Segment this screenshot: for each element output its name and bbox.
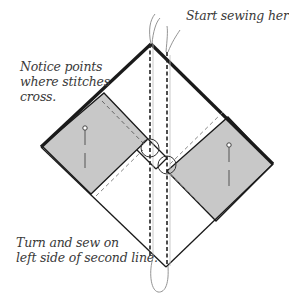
start-sewing-text: Start sewing here.: [186, 8, 289, 23]
turn-line-1: Turn and sew on: [16, 235, 158, 250]
turn-line-2: left side of second line.: [16, 250, 158, 265]
notice-line-2: where stitches: [20, 74, 110, 89]
notice-line-1: Notice points: [20, 59, 110, 74]
notice-line-3: cross.: [20, 89, 110, 104]
notice-points-label: Notice points where stitches cross.: [20, 59, 110, 104]
start-sewing-label: Start sewing here.: [186, 8, 289, 23]
turn-and-sew-label: Turn and sew on left side of second line…: [16, 235, 158, 265]
sewing-diagram: Start sewing here. Notice points where s…: [0, 0, 289, 300]
